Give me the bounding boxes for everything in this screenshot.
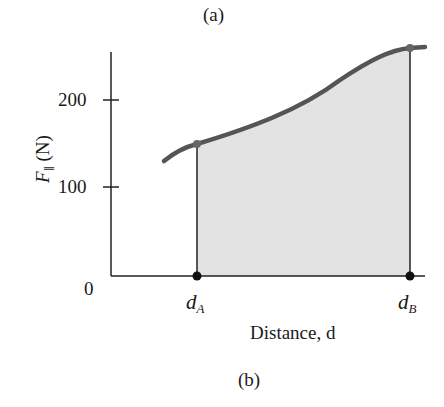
x-marker-d-a: dA <box>186 292 204 315</box>
point-d-a-axis <box>193 272 202 281</box>
point-a-curve <box>193 140 201 148</box>
x-marker-d-b: dB <box>398 292 416 315</box>
force-distance-chart <box>0 0 444 407</box>
point-d-b-axis <box>406 272 415 281</box>
y-tick-label-200: 200 <box>58 90 87 109</box>
y-tick-label-100: 100 <box>58 177 87 196</box>
point-b-curve <box>406 44 414 52</box>
work-shaded-area <box>197 48 410 276</box>
y-tick-label-0: 0 <box>84 279 94 298</box>
bottom-caption: (b) <box>238 370 260 389</box>
y-axis-label: F∥ (N) <box>33 119 55 199</box>
x-axis-label: Distance, d <box>250 323 335 342</box>
